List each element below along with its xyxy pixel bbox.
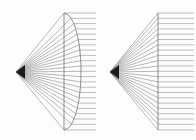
optical-ray-figure bbox=[0, 0, 196, 140]
ray-diagram-canvas bbox=[0, 0, 196, 140]
